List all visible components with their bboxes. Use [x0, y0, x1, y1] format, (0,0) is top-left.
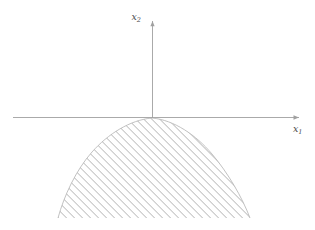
hatched-region [58, 118, 250, 218]
region-hatch-fill [58, 118, 250, 218]
x1-axis-label: x1 [293, 123, 303, 136]
x1-axis-label-subscript: 1 [298, 128, 302, 136]
x2-axis-label: x2 [132, 11, 142, 24]
x2-axis-arrowhead [150, 21, 154, 26]
x1-axis-arrowhead [294, 115, 300, 119]
x2-axis-label-subscript: 2 [136, 16, 141, 24]
figure-canvas: x2 x1 [0, 0, 315, 230]
figure-svg: x2 x1 [0, 0, 315, 230]
x2-axis [150, 21, 154, 118]
